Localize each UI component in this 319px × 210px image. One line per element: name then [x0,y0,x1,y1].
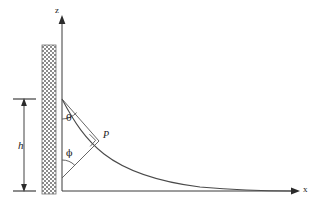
z-axis-arrowhead [59,15,66,24]
x-axis-label: x [303,185,308,194]
z-axis-label: z [55,6,59,15]
decay-curve [62,99,291,191]
phi-angle-label: ϕ [66,148,72,158]
figure-canvas: z x h θ ϕ P [0,0,319,210]
phi-arc [62,160,75,165]
point-p-label: P [103,130,109,140]
theta-angle-label: θ [66,113,72,123]
diagram-svg [0,0,319,210]
hatched-wall [42,45,56,194]
x-axis-arrowhead [291,188,300,195]
height-label: h [18,140,24,151]
